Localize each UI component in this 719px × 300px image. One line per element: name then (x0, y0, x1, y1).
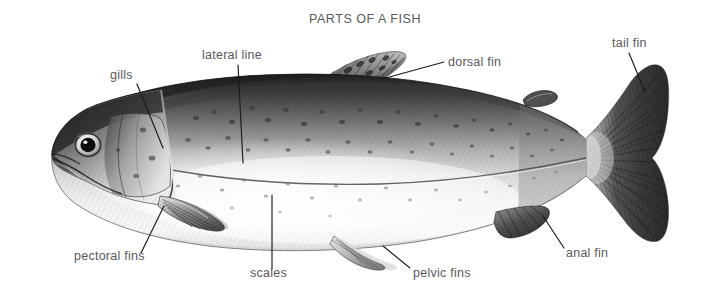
anal-fin-shape (494, 206, 550, 238)
leader-line-anal-fin (543, 216, 564, 248)
label-text-anal-fin: anal fin (566, 246, 608, 260)
fish-diagram-page: PARTS OF A FISH (0, 0, 719, 300)
fish-illustration (40, 52, 669, 271)
page-title: PARTS OF A FISH (309, 12, 421, 26)
fish-eye (74, 132, 103, 158)
label-text-scales: scales (250, 266, 287, 280)
label-pelvic-fins[interactable]: pelvic fins (383, 246, 471, 280)
label-text-pectoral-fins: pectoral fins (74, 249, 145, 263)
label-text-gills: gills (110, 68, 133, 82)
tail-fin-shape (578, 65, 669, 242)
label-text-tail-fin: tail fin (612, 36, 647, 50)
label-anal-fin[interactable]: anal fin (543, 216, 608, 260)
label-text-pelvic-fins: pelvic fins (413, 266, 471, 280)
label-text-dorsal-fin: dorsal fin (448, 55, 501, 69)
fish-diagram-canvas: PARTS OF A FISH (0, 0, 719, 300)
label-text-lateral-line: lateral line (202, 48, 262, 62)
adipose-fin-shape (523, 90, 557, 106)
